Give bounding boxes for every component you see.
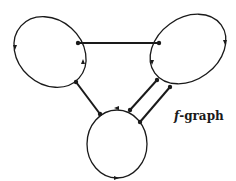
- graph-suffix: -graph: [179, 109, 224, 123]
- vertex: [74, 80, 78, 84]
- f-graph-diagram: [0, 0, 236, 181]
- f-graph-label: f-graph: [174, 109, 224, 123]
- loop-bottom: [87, 110, 147, 178]
- arrow-marker: [81, 59, 85, 64]
- edge-left-bottom: [76, 82, 100, 114]
- vertex: [157, 41, 161, 45]
- edge-right-bottom-2: [140, 87, 170, 122]
- arrow-marker: [114, 176, 119, 180]
- vertex: [155, 78, 159, 82]
- vertex: [76, 41, 80, 45]
- vertex: [168, 85, 172, 89]
- vertex: [98, 112, 102, 116]
- loop-right: [137, 0, 236, 98]
- vertex: [138, 120, 142, 124]
- vertex: [128, 108, 132, 112]
- loop-left: [0, 2, 100, 102]
